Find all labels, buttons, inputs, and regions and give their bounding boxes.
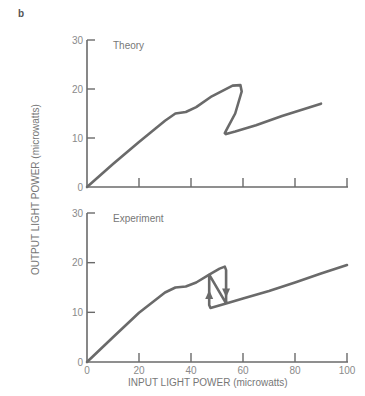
- plot-title: Experiment: [113, 213, 164, 224]
- y-tick-label: 10: [72, 133, 84, 144]
- chart-canvas: 0102030Theory0102030020406080100Experime…: [0, 0, 365, 396]
- y-tick-label: 20: [72, 257, 84, 268]
- y-tick-label: 0: [77, 182, 83, 193]
- y-tick-label: 30: [72, 35, 84, 46]
- arrow-up-icon: [205, 290, 213, 299]
- x-tick-label: 0: [84, 365, 90, 376]
- x-tick-label: 60: [237, 365, 249, 376]
- y-tick-label: 10: [72, 307, 84, 318]
- y-tick-label: 30: [72, 208, 84, 219]
- y-tick-label: 20: [72, 84, 84, 95]
- x-tick-label: 20: [133, 365, 145, 376]
- x-tick-label: 80: [289, 365, 301, 376]
- data-line: [87, 85, 321, 187]
- y-tick-label: 0: [77, 357, 83, 368]
- plot-title: Theory: [113, 40, 144, 51]
- x-tick-label: 100: [339, 365, 356, 376]
- x-tick-label: 40: [185, 365, 197, 376]
- data-line: [87, 265, 347, 362]
